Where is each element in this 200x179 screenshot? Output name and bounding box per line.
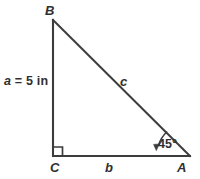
side-a-measure-label: a = 5 in xyxy=(4,75,48,88)
vertex-label-a: A xyxy=(177,161,186,174)
side-label-c: c xyxy=(120,75,127,88)
side-label-b: b xyxy=(105,161,113,174)
angle-measure-label: 45° xyxy=(158,138,177,151)
figure-background xyxy=(0,0,200,179)
vertex-label-c: C xyxy=(50,161,59,174)
side-a-value: = 5 in xyxy=(11,74,48,88)
vertex-label-b: B xyxy=(45,4,54,17)
triangle-drawing xyxy=(0,0,200,179)
geometry-figure: B C A b c a = 5 in 45° xyxy=(0,0,200,179)
